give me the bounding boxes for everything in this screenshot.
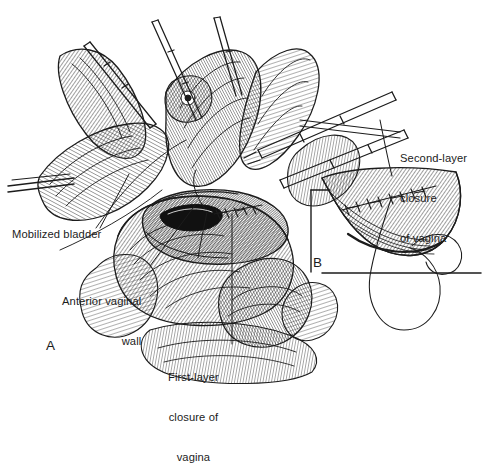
panel-label-b: B [313,256,322,270]
label-anterior-vaginal-wall: Anterior vaginal wall [62,269,141,375]
label-mobilized-bladder: Mobilized bladder [12,228,101,241]
peritoneal-flap-left [58,49,145,158]
label-first-layer-line2: closure of [168,411,219,424]
label-second-layer-closure: Second-layer closure of vagina [400,126,467,271]
label-first-layer-closure: First-layer closure of vagina [168,345,219,467]
label-anterior-vaginal-wall-line1: Anterior vaginal [62,295,141,308]
label-first-layer-line1: First-layer [168,371,219,384]
vaginal-cuff [143,190,289,265]
label-second-layer-line3: of vagina [400,232,467,245]
upper-right-structure [165,76,212,122]
label-second-layer-line1: Second-layer [400,152,467,165]
label-second-layer-line2: closure [400,192,467,205]
label-anterior-vaginal-wall-line2: wall [62,335,141,348]
panel-label-a: A [46,339,55,353]
label-first-layer-line3: vagina [168,451,219,464]
